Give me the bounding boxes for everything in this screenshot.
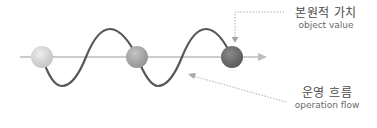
- sphere-3: [221, 46, 243, 68]
- operation-flow-label: 운영 흐름 operation flow: [288, 86, 366, 111]
- object-value-label-en: object value: [290, 20, 362, 31]
- sphere-2: [126, 46, 148, 68]
- operation-flow-label-en: operation flow: [288, 100, 366, 111]
- object-value-callout: [232, 12, 285, 43]
- object-value-label-ko: 본원적 가치: [290, 6, 362, 20]
- callout-arrowhead-icon: [232, 37, 239, 43]
- operation-flow-callout: [188, 73, 286, 102]
- axis-arrowhead-icon: [258, 53, 267, 61]
- sphere-1: [31, 46, 53, 68]
- operation-flow-label-ko: 운영 흐름: [288, 86, 366, 100]
- object-value-label: 본원적 가치 object value: [290, 6, 362, 31]
- callout-arrowhead-icon: [188, 73, 196, 79]
